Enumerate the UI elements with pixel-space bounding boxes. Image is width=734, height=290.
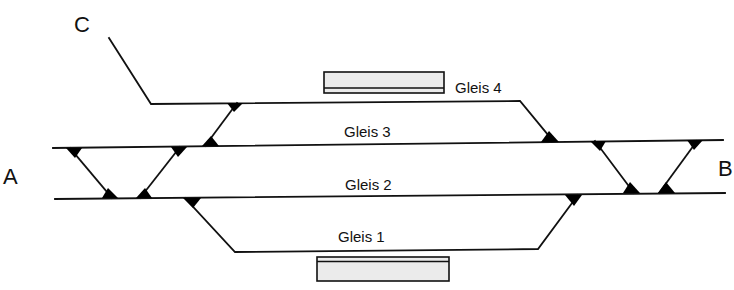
track-gleis-3 bbox=[53, 140, 723, 148]
track-layout-diagram: A B C bbox=[0, 0, 734, 290]
track-gleis-2 bbox=[55, 193, 725, 199]
switch-icon bbox=[590, 141, 606, 151]
track-label-gleis-4: Gleis 4 bbox=[455, 79, 502, 96]
switch-icon bbox=[136, 188, 152, 198]
switch-icon bbox=[66, 148, 82, 158]
track-label-gleis-2: Gleis 2 bbox=[345, 176, 392, 193]
platform-gleis-4 bbox=[324, 72, 444, 93]
endpoint-label-c: C bbox=[74, 12, 90, 37]
endpoint-label-b: B bbox=[718, 156, 733, 181]
switch-icon bbox=[687, 140, 703, 150]
switch-icon bbox=[658, 182, 675, 193]
track-label-gleis-1: Gleis 1 bbox=[338, 228, 385, 245]
switch-icon bbox=[202, 136, 219, 146]
endpoint-label-a: A bbox=[3, 164, 18, 189]
track-label-gleis-3: Gleis 3 bbox=[344, 123, 391, 140]
switch-icon bbox=[183, 198, 201, 208]
switch-icon bbox=[623, 182, 640, 193]
switch-icon bbox=[227, 103, 243, 112]
platform-gleis-1 bbox=[317, 257, 449, 281]
switch-icon bbox=[565, 195, 582, 206]
switch-icon bbox=[541, 131, 559, 142]
